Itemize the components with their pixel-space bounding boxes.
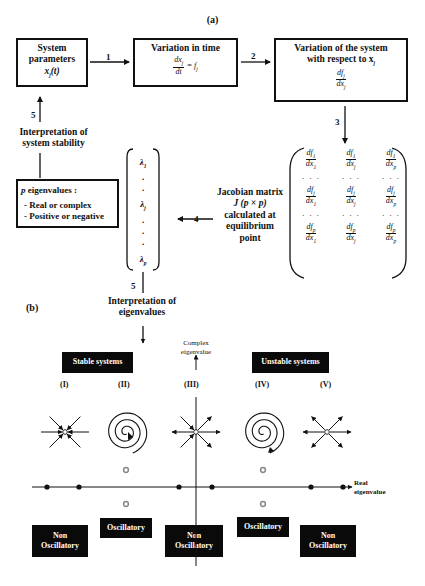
complex-eigenvalue-point xyxy=(124,502,129,507)
stable-node-icon xyxy=(41,417,89,448)
complex-eigenvalue-point xyxy=(261,502,266,507)
real-eigenvalue-point xyxy=(44,484,49,489)
vector-right-paren xyxy=(153,149,159,270)
equilibrium-point-icon xyxy=(194,430,199,435)
complex-eigenvalue-point xyxy=(261,468,266,473)
complex-eigenvalue-point xyxy=(124,468,129,473)
unstable-node-icon xyxy=(303,417,351,448)
real-eigenvalue-point xyxy=(209,484,214,489)
unstable-spiral-icon xyxy=(246,413,284,453)
stable-spiral-icon xyxy=(109,413,147,453)
vector-left-paren xyxy=(127,149,133,270)
matrix-left-paren xyxy=(290,148,304,278)
real-eigenvalue-point xyxy=(340,484,345,489)
matrix-right-paren xyxy=(392,148,406,278)
equilibrium-point-icon xyxy=(325,430,330,435)
real-eigenvalue-point xyxy=(76,484,81,489)
real-eigenvalue-point xyxy=(308,484,313,489)
diagram-lines xyxy=(0,0,425,586)
real-eigenvalue-point xyxy=(176,484,181,489)
equilibrium-point-icon xyxy=(63,430,68,435)
